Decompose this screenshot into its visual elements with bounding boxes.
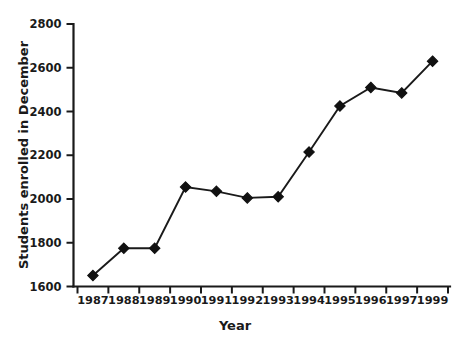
x-axis-tick-label: 1989 <box>139 294 171 307</box>
x-axis-tick-label: 1996 <box>355 294 387 307</box>
data-point-marker <box>149 243 159 253</box>
y-axis-ticks: 1600180020002200240026002800 <box>29 17 73 294</box>
y-axis-tick-label: 1800 <box>29 236 61 250</box>
x-axis-tick-label: 1988 <box>108 294 140 307</box>
x-axis-title: Year <box>218 318 252 333</box>
data-point-marker <box>335 101 345 111</box>
data-point-marker <box>366 82 376 92</box>
data-point-marker <box>242 193 252 203</box>
x-axis-tick-label: 1991 <box>201 294 233 307</box>
x-axis-tick-label: 1992 <box>232 294 263 307</box>
y-axis-tick-label: 1600 <box>29 280 61 294</box>
y-axis-tick-label: 2000 <box>29 192 61 206</box>
x-axis-tick-label: 1990 <box>170 294 202 307</box>
series-line-students-enrolled <box>93 61 433 275</box>
x-axis-tick-label: 1995 <box>324 294 356 307</box>
x-axis-tick-label: 1994 <box>293 294 325 307</box>
y-axis-tick-label: 2800 <box>29 17 61 31</box>
x-axis-tick-label: 1997 <box>386 294 417 307</box>
y-axis-tick-label: 2200 <box>29 148 61 162</box>
data-point-marker <box>211 186 221 196</box>
x-axis-ticks: 1987198819891990199119921993199419951996… <box>77 287 448 307</box>
data-point-marker <box>180 182 190 192</box>
y-axis-tick-label: 2400 <box>29 105 61 119</box>
line-chart-figure: Students enrolled in December 1600180020… <box>0 0 457 347</box>
x-axis-tick-label: 1993 <box>262 294 293 307</box>
x-axis-tick-label: 1987 <box>77 294 108 307</box>
y-axis-tick-label: 2600 <box>29 61 61 75</box>
chart-canvas: Students enrolled in December 1600180020… <box>0 0 457 347</box>
x-axis-tick-label: 1999 <box>417 294 449 307</box>
